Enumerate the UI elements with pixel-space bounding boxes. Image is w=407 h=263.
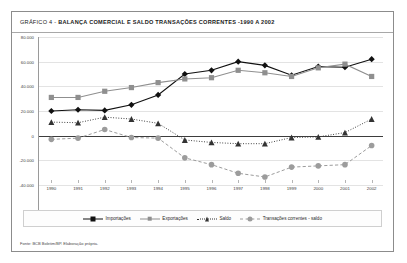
legend-swatch-triangle-icon <box>197 215 217 223</box>
legend-item[interactable]: Exportações <box>140 215 188 223</box>
data-point <box>49 137 55 143</box>
data-point <box>75 135 81 141</box>
data-point <box>289 74 294 79</box>
legend-item[interactable]: Importações <box>83 215 131 223</box>
data-point <box>48 119 54 125</box>
data-point <box>315 134 321 140</box>
data-point <box>315 163 321 169</box>
legend-swatch-diamond-icon <box>83 215 103 223</box>
data-point <box>262 174 268 180</box>
data-point <box>342 162 348 168</box>
series-line <box>51 130 371 177</box>
data-point <box>262 62 268 68</box>
legend-label: Saldo <box>219 216 231 221</box>
data-point <box>209 162 215 168</box>
legend-swatch-square-icon <box>140 215 160 223</box>
source-note: Fonte: BCB Boletim/BP. Elaboração própri… <box>20 241 98 246</box>
data-point <box>156 80 161 85</box>
legend-label: Importações <box>106 216 131 221</box>
data-point <box>209 75 214 80</box>
legend-item[interactable]: Saldo <box>197 215 231 223</box>
data-point <box>369 143 375 149</box>
data-point <box>235 59 241 65</box>
series-triangle <box>48 114 374 146</box>
data-point <box>208 67 214 73</box>
data-point <box>236 68 241 73</box>
data-point <box>262 70 267 75</box>
chart-figure: GRÁFICO 4 - BALANÇA COMERCIAL E SALDO TR… <box>11 11 394 252</box>
chart-legend: ImportaçõesExportaçõesSaldoTransações co… <box>23 210 382 227</box>
title-prefix: GRÁFICO 4 - <box>20 19 58 25</box>
data-point <box>155 120 161 126</box>
data-point <box>289 164 295 170</box>
data-point <box>182 137 188 143</box>
data-point <box>182 76 187 81</box>
data-point <box>102 89 107 94</box>
legend-label: Transações correntes - saldo <box>263 216 322 221</box>
data-point <box>316 65 321 70</box>
legend-label: Exportações <box>162 216 188 221</box>
legend-item[interactable]: Transações correntes - saldo <box>240 215 322 223</box>
data-point <box>129 135 135 141</box>
series-circle <box>49 127 375 180</box>
data-point <box>155 135 161 141</box>
data-point <box>128 102 134 108</box>
data-point <box>342 62 347 67</box>
legend-swatch-circle-icon <box>240 215 260 223</box>
data-point <box>342 130 348 136</box>
data-point <box>48 108 54 114</box>
data-point <box>102 114 108 120</box>
data-point <box>75 95 80 100</box>
data-point <box>49 95 54 100</box>
series-diamond <box>48 56 375 114</box>
data-point <box>182 155 188 161</box>
data-point <box>75 107 81 113</box>
data-point <box>102 127 108 133</box>
data-point <box>102 107 108 113</box>
data-point <box>235 170 241 176</box>
data-point <box>129 85 134 90</box>
chart-title-bar: GRÁFICO 4 - BALANÇA COMERCIAL E SALDO TR… <box>12 12 393 33</box>
page-title: GRÁFICO 4 - BALANÇA COMERCIAL E SALDO TR… <box>12 19 275 25</box>
data-point <box>369 74 374 79</box>
title-main: BALANÇA COMERCIAL E SALDO TRANSAÇÕES COR… <box>58 19 274 25</box>
data-point <box>369 116 375 122</box>
data-point <box>369 56 375 62</box>
